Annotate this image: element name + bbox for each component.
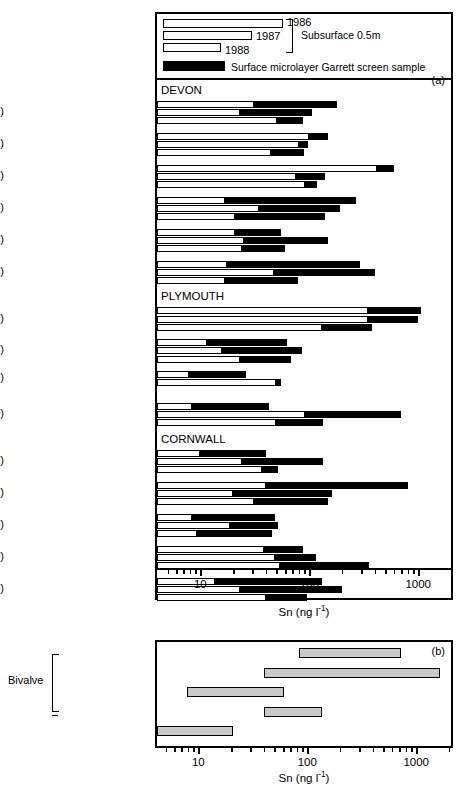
- bar-site-7-1987: [157, 316, 418, 323]
- x-tick-minor: [252, 570, 253, 574]
- microlayer-segment: [191, 403, 269, 410]
- x-tick-minor: [233, 570, 234, 574]
- microlayer-segment: [241, 458, 323, 465]
- site-label-1: Starcross (1): [0, 105, 4, 117]
- legend-bar-1987: [163, 31, 252, 40]
- x-ticklabel-b-100: 100: [298, 756, 317, 768]
- region-header-devon: DEVON: [161, 84, 202, 96]
- microlayer-segment: [206, 339, 286, 346]
- x-tick-minor-b: [340, 748, 341, 752]
- bar-site-14-1986: [157, 546, 303, 553]
- x-tick-1000: [418, 570, 419, 576]
- x-tick-minor: [299, 570, 300, 574]
- microlayer-segment: [367, 316, 417, 323]
- bar-site-10-1986: [157, 403, 269, 410]
- hydroid-dash: [52, 715, 58, 716]
- x-tick-minor: [451, 570, 452, 574]
- bar-site-4-1986: [157, 197, 356, 204]
- x-tick-minor: [401, 570, 402, 574]
- region-header-cornwall: CORNWALL: [161, 433, 226, 445]
- x-tick-minor-b: [449, 748, 450, 752]
- bar-site-6-1988: [157, 277, 298, 284]
- microlayer-segment: [258, 205, 339, 212]
- site-label-11: Saltash (11): [0, 454, 4, 466]
- microlayer-segment: [253, 498, 327, 505]
- effect-range-0: [299, 648, 402, 658]
- microlayer-segment: [275, 419, 323, 426]
- x-tick-minor-b: [359, 748, 360, 752]
- bar-site-8-1986: [157, 339, 287, 346]
- bar-site-11-1987: [157, 458, 323, 465]
- x-tick-100: [309, 570, 310, 576]
- bivalve-group-label: Bivalve: [8, 674, 43, 686]
- microlayer-segment: [263, 546, 302, 553]
- microlayer-segment: [199, 450, 265, 457]
- effect-range-3: [264, 707, 322, 717]
- bar-site-9-1986: [157, 371, 246, 378]
- x-tick-minor: [361, 570, 362, 574]
- x-tick-b-100: [307, 748, 308, 754]
- x-axis-label-b: Sn (ng l-1): [155, 770, 453, 784]
- bar-site-10-1987: [157, 411, 401, 418]
- microlayer-segment: [275, 379, 280, 386]
- x-tick-minor: [276, 570, 277, 574]
- microlayer-segment: [321, 324, 372, 331]
- microlayer-segment: [239, 109, 311, 116]
- site-label-13: King Harry Ferry (13): [0, 518, 4, 530]
- x-tick-minor: [292, 570, 293, 574]
- x-tick-minor: [176, 570, 177, 574]
- x-tick-minor-b: [264, 748, 265, 752]
- legend-year-1987: 1987: [256, 30, 280, 42]
- microlayer-segment: [188, 371, 245, 378]
- x-tick-minor-b: [399, 748, 400, 752]
- site-label-10: Ocean Court Marina (10): [0, 407, 4, 419]
- x-tick-minor-b: [283, 748, 284, 752]
- microlayer-segment: [367, 307, 420, 314]
- plot-area-a: DEVONPLYMOUTHCORNWALL: [157, 80, 451, 568]
- site-label-8: Plymouth Hoe (8): [0, 343, 4, 355]
- x-tick-minor-b: [166, 748, 167, 752]
- effect-range-2: [187, 687, 284, 697]
- plot-area-b: [157, 642, 451, 746]
- bar-site-8-1988: [157, 356, 291, 363]
- bar-site-7-1988: [157, 324, 372, 331]
- microlayer-segment: [224, 197, 356, 204]
- bar-site-11-1986: [157, 450, 266, 457]
- effect-range-4: [157, 726, 233, 736]
- x-tick-minor: [408, 570, 409, 574]
- microlayer-segment: [224, 277, 297, 284]
- legend-brace: [286, 19, 293, 53]
- site-label-7: Sutton Marina (7): [0, 312, 4, 324]
- panel-b: (b): [155, 640, 453, 748]
- microlayer-segment: [196, 530, 270, 537]
- bar-site-4-1987: [157, 205, 340, 212]
- microlayer-segment: [265, 482, 407, 489]
- region-header-plymouth: PLYMOUTH: [161, 290, 224, 302]
- microlayer-segment: [276, 117, 303, 124]
- microlayer-segment: [298, 141, 307, 148]
- microlayer-segment: [308, 133, 328, 140]
- bar-site-6-1986: [157, 261, 360, 268]
- bar-site-6-1987: [157, 269, 375, 276]
- bar-site-5-1986: [157, 229, 281, 236]
- bar-site-11-1988: [157, 466, 278, 473]
- microlayer-segment: [304, 181, 316, 188]
- bivalve-brace: [52, 654, 59, 712]
- site-label-14: Falmouth Pier (14): [0, 550, 4, 562]
- x-tick-minor-b: [373, 748, 374, 752]
- legend-bar-1986: [163, 19, 283, 28]
- microlayer-segment: [234, 213, 324, 220]
- x-tick-minor: [375, 570, 376, 574]
- site-label-9: Millbay Docks (9): [0, 371, 4, 383]
- x-tick-minor: [413, 570, 414, 574]
- x-tick-minor-b: [188, 748, 189, 752]
- microlayer-segment: [234, 229, 280, 236]
- microlayer-segment: [226, 261, 358, 268]
- x-ticklabel-1000: 1000: [405, 578, 431, 590]
- x-axis-label-a: Sn (ng l-1): [155, 604, 453, 618]
- microlayer-segment: [295, 173, 324, 180]
- legend-bar-microlayer: [163, 61, 225, 71]
- microlayer-segment: [241, 245, 284, 252]
- bar-site-3-1987: [157, 173, 325, 180]
- bar-site-8-1987: [157, 347, 302, 354]
